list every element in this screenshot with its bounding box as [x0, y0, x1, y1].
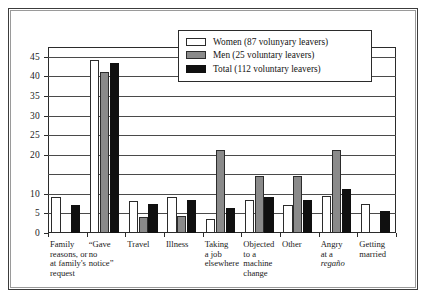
x-tick-mark: [241, 233, 242, 237]
y-tick-mark: [44, 213, 48, 214]
bar-women: [129, 201, 138, 233]
legend: Women (87 volunyary leavers)Men (25 volu…: [178, 30, 372, 82]
y-tick-mark: [44, 96, 48, 97]
bar-total: [303, 200, 312, 233]
bar-total: [71, 205, 80, 233]
x-category-label-line: married: [359, 250, 404, 260]
bar-total: [226, 208, 235, 233]
legend-item-total: Total (112 voluntary leavers): [186, 62, 365, 76]
y-tick-mark: [44, 194, 48, 195]
y-tick-label: 45: [14, 52, 40, 62]
legend-label: Men (25 voluntary leavers): [213, 50, 314, 60]
y-tick-label: 40: [14, 71, 40, 81]
x-tick-mark: [396, 233, 397, 237]
bar-women: [245, 200, 254, 233]
legend-item-men: Men (25 voluntary leavers): [186, 49, 365, 63]
bar-men: [293, 176, 302, 233]
x-tick-mark: [319, 233, 320, 237]
y-tick-label: 35: [14, 91, 40, 101]
y-tick-label: 5: [14, 208, 40, 218]
y-tick-mark: [44, 76, 48, 77]
bar-women: [361, 204, 370, 233]
x-tick-mark: [87, 233, 88, 237]
x-category-label: Gettingmarried: [359, 240, 404, 259]
y-tick-label: 10: [14, 189, 40, 199]
y-tick-mark: [44, 116, 48, 117]
x-tick-mark: [357, 233, 358, 237]
bar-men: [139, 217, 148, 233]
x-tick-mark: [203, 233, 204, 237]
bar-women: [167, 197, 176, 233]
x-category-label-line: regaño: [321, 259, 366, 269]
bar-women: [90, 60, 99, 233]
bar-total: [148, 204, 157, 233]
x-tick-mark: [125, 233, 126, 237]
bar-women: [51, 197, 60, 233]
bar-men: [177, 216, 186, 233]
legend-label: Women (87 volunyary leavers): [213, 37, 328, 47]
bar-total: [342, 189, 351, 233]
legend-label: Total (112 voluntary leavers): [213, 64, 321, 74]
bar-men: [100, 72, 109, 233]
white-bar-swatch: [186, 38, 206, 46]
x-category-label-line: change: [243, 269, 288, 279]
bar-total: [264, 197, 273, 233]
bar-total: [380, 211, 389, 233]
y-tick-mark: [44, 135, 48, 136]
y-tick-mark: [44, 155, 48, 156]
bar-women: [206, 219, 215, 233]
bar-chart: 0510202530354045 Familyreasons, orat fam…: [0, 0, 428, 300]
y-tick-mark: [44, 57, 48, 58]
x-tick-mark: [48, 233, 49, 237]
black-bar-swatch: [186, 65, 206, 73]
grey-bar-swatch: [186, 51, 206, 59]
bar-total: [187, 200, 196, 233]
bar-men: [255, 176, 264, 233]
bar-women: [322, 196, 331, 233]
bar-women: [283, 205, 292, 233]
x-category-label-line: request: [50, 269, 95, 279]
y-tick-label: 0: [14, 228, 40, 238]
x-tick-mark: [280, 233, 281, 237]
y-tick-label: 20: [14, 150, 40, 160]
bar-men: [216, 150, 225, 233]
y-tick-label: 25: [14, 130, 40, 140]
y-tick-label: 30: [14, 111, 40, 121]
x-tick-mark: [164, 233, 165, 237]
bar-total: [110, 63, 119, 233]
legend-item-women: Women (87 volunyary leavers): [186, 35, 365, 49]
x-category-label-line: notice”: [89, 259, 134, 269]
bar-men: [332, 150, 341, 233]
